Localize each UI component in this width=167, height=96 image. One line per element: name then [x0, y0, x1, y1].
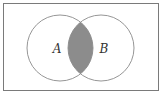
set-a-label: A — [52, 42, 62, 56]
set-b-label: B — [99, 42, 109, 56]
venn-diagram: A B — [0, 0, 167, 96]
